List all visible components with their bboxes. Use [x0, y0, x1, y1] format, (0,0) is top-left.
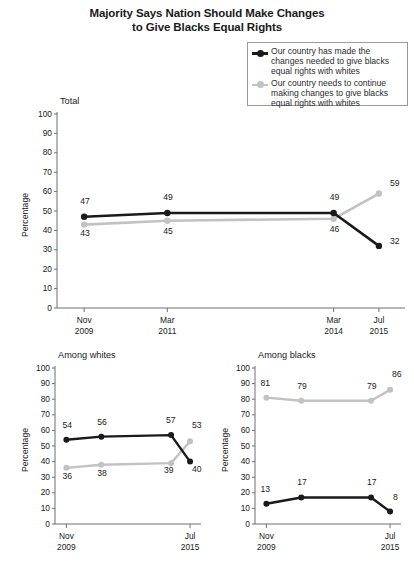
- black-dot-line-icon: [252, 47, 268, 60]
- data-point-label: 79: [297, 381, 307, 391]
- page-title: Majority Says Nation Should Make Changes…: [0, 6, 414, 34]
- legend-item-label: Our country has made the changes needed …: [271, 47, 404, 77]
- data-point-label: 57: [166, 415, 176, 425]
- data-point-label: 49: [330, 192, 340, 202]
- gray-dot-line-icon: [252, 79, 268, 92]
- series-data-point: [330, 216, 336, 222]
- title-line-2: to Give Blacks Equal Rights: [0, 20, 414, 34]
- series-data-point: [164, 210, 170, 216]
- data-point-label: 17: [367, 477, 377, 487]
- plot-area: [14, 96, 410, 328]
- data-point-label: 81: [260, 378, 270, 388]
- series-data-point: [368, 398, 374, 404]
- plot-area: [214, 348, 410, 566]
- series-data-point: [263, 501, 269, 507]
- chart-panel-among-blacks: Among blacksPercentage010203040506070809…: [214, 348, 410, 566]
- title-line-1: Majority Says Nation Should Make Changes: [90, 7, 325, 19]
- data-point-label: 79: [367, 381, 377, 391]
- legend-item-made-changes: Our country has made the changes needed …: [252, 47, 404, 77]
- series-data-point: [63, 437, 69, 443]
- data-point-label: 32: [390, 236, 400, 246]
- series-data-point: [263, 395, 269, 401]
- chart-panel-among-whites: Among whitesPercentage010203040506070809…: [14, 348, 210, 566]
- series-data-point: [387, 509, 393, 515]
- data-point-label: 45: [163, 226, 173, 236]
- data-point-label: 13: [260, 484, 270, 494]
- chart-page: Majority Says Nation Should Make Changes…: [0, 0, 414, 566]
- data-point-label: 59: [390, 178, 400, 188]
- series-data-point: [298, 494, 304, 500]
- series-data-point: [387, 387, 393, 393]
- data-point-label: 46: [330, 224, 340, 234]
- series-data-point: [368, 494, 374, 500]
- data-point-label: 53: [192, 420, 202, 430]
- series-line: [66, 435, 190, 462]
- data-point-label: 47: [80, 196, 90, 206]
- series-data-point: [376, 243, 382, 249]
- data-point-label: 56: [97, 417, 107, 427]
- data-point-label: 38: [97, 468, 107, 478]
- data-point-label: 49: [163, 192, 173, 202]
- data-point-label: 36: [62, 471, 72, 481]
- series-data-point: [330, 210, 336, 216]
- plot-area: [14, 348, 210, 566]
- series-data-point: [164, 218, 170, 224]
- data-point-label: 39: [164, 465, 174, 475]
- series-data-point: [168, 432, 174, 438]
- series-data-point: [298, 398, 304, 404]
- data-point-label: 86: [392, 369, 402, 379]
- data-point-label: 40: [192, 464, 202, 474]
- chart-panel-total: TotalPercentage0102030405060708090100Nov…: [14, 96, 410, 328]
- data-point-label: 17: [297, 477, 307, 487]
- series-data-point: [187, 438, 193, 444]
- data-point-label: 54: [62, 420, 72, 430]
- data-point-label: 43: [80, 228, 90, 238]
- series-data-point: [376, 190, 382, 196]
- series-data-point: [81, 214, 87, 220]
- series-data-point: [98, 434, 104, 440]
- data-point-label: 8: [393, 492, 398, 502]
